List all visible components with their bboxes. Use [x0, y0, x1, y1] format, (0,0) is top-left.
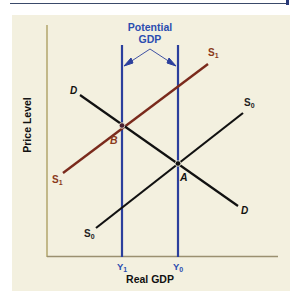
d-label-bottom: D [241, 205, 248, 216]
point-b-marker [119, 123, 125, 129]
potential-gdp-label-line1: Potential [128, 21, 172, 33]
d-label-top: D [70, 85, 77, 96]
demand-curve [80, 95, 238, 206]
y1-tick-label: Y1 [117, 261, 127, 273]
potential-gdp-label-line2: GDP [139, 33, 162, 45]
potential-gdp-arrows [124, 49, 176, 66]
point-a-label: A [179, 171, 188, 183]
aggregate-supply-demand-diagram: Potential GDP S1 S1 S0 S0 D D B A Y1 Y0 … [0, 0, 299, 297]
y0-tick-label: Y0 [173, 261, 183, 273]
point-b-label: B [110, 134, 118, 146]
s0-label-bottom: S0 [84, 228, 95, 240]
point-a-marker [175, 161, 181, 167]
y-axis-label: Price Level [21, 97, 33, 153]
s0-label-top: S0 [244, 97, 255, 109]
s1-label-top: S1 [208, 47, 219, 59]
s1-label-bottom: S1 [52, 174, 63, 186]
x-axis-label: Real GDP [126, 273, 174, 285]
